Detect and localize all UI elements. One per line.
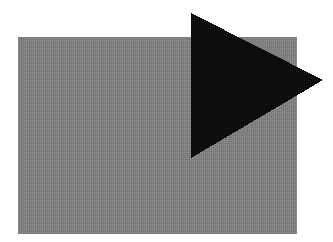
image-canvas [0, 0, 333, 242]
shape-composition-figure [0, 0, 333, 242]
